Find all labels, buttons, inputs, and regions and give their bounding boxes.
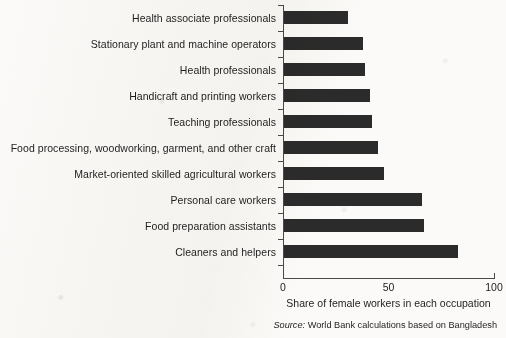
source-note: Source: World Bank calculations based on… [0, 320, 497, 330]
bar-track [283, 161, 494, 187]
category-label: Food processing, woodworking, garment, a… [11, 135, 283, 161]
y-axis-tick [278, 57, 284, 58]
x-axis-start-cap [283, 273, 284, 279]
y-axis-line [283, 5, 284, 278]
x-tick-label-0: 0 [280, 281, 286, 293]
bar [283, 63, 365, 76]
table-row: Market-oriented skilled agricultural wor… [0, 161, 506, 187]
horizontal-bar-chart: Health associate professionals Stationar… [0, 0, 506, 338]
bar-track [283, 213, 494, 239]
category-label: Food preparation assistants [145, 213, 283, 239]
category-label: Teaching professionals [168, 109, 283, 135]
bar [283, 245, 458, 258]
y-axis-tick [278, 5, 284, 6]
table-row: Personal care workers [0, 187, 506, 213]
bar-track [283, 187, 494, 213]
table-row: Teaching professionals [0, 109, 506, 135]
bar-track [283, 57, 494, 83]
category-label: Market-oriented skilled agricultural wor… [74, 161, 283, 187]
bar [283, 167, 384, 180]
bar [283, 37, 363, 50]
table-row: Food processing, woodworking, garment, a… [0, 135, 506, 161]
x-tick-label-100: 100 [485, 281, 503, 293]
y-axis-tick [278, 161, 284, 162]
source-keyword: Source: [273, 320, 305, 330]
bar [283, 219, 424, 232]
y-axis-tick [278, 213, 284, 214]
source-text: World Bank calculations based on Banglad… [308, 320, 497, 330]
bar [283, 89, 370, 102]
bar-rows: Health associate professionals Stationar… [0, 5, 506, 265]
bar-track [283, 109, 494, 135]
category-label: Health professionals [180, 57, 283, 83]
table-row: Handicraft and printing workers [0, 83, 506, 109]
table-row: Food preparation assistants [0, 213, 506, 239]
x-tick-label-50: 50 [383, 281, 395, 293]
y-axis-tick [278, 83, 284, 84]
bar-track [283, 31, 494, 57]
bar [283, 115, 372, 128]
x-axis-end-cap [494, 273, 495, 279]
plot-area: Health associate professionals Stationar… [0, 0, 506, 290]
bar [283, 193, 422, 206]
y-axis-tick [278, 239, 284, 240]
table-row: Cleaners and helpers [0, 239, 506, 265]
y-axis-tick [278, 31, 284, 32]
bar [283, 141, 378, 154]
table-row: Health associate professionals [0, 5, 506, 31]
bar-track [283, 5, 494, 31]
y-axis-tick [278, 265, 284, 266]
y-axis-tick [278, 135, 284, 136]
category-label: Cleaners and helpers [175, 239, 283, 265]
category-label: Personal care workers [170, 187, 283, 213]
y-axis-tick [278, 109, 284, 110]
category-label: Health associate professionals [132, 5, 283, 31]
category-label: Handicraft and printing workers [129, 83, 283, 109]
bar-track [283, 239, 494, 265]
table-row: Stationary plant and machine operators [0, 31, 506, 57]
table-row: Health professionals [0, 57, 506, 83]
y-axis-tick [278, 187, 284, 188]
x-axis-title: Share of female workers in each occupati… [283, 297, 494, 309]
bar [283, 11, 348, 24]
bar-track [283, 83, 494, 109]
x-axis-line [283, 278, 494, 279]
category-label: Stationary plant and machine operators [91, 31, 283, 57]
bar-track [283, 135, 494, 161]
